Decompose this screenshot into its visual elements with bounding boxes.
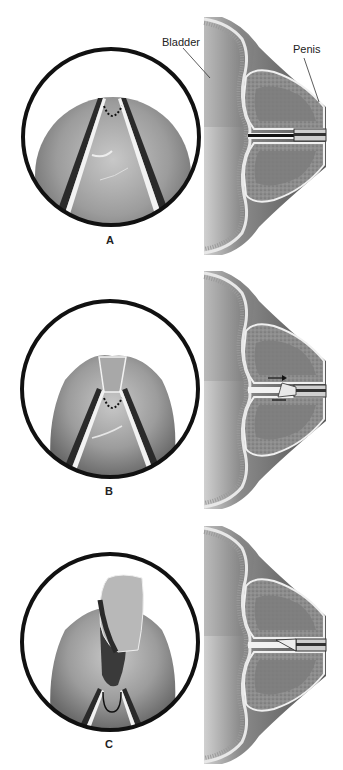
panel-label-b: B — [99, 485, 119, 497]
panel-b — [20, 300, 205, 485]
panel-c — [20, 553, 205, 738]
illustration-canvas — [0, 0, 343, 770]
bladder-label: Bladder — [162, 36, 200, 48]
anatomy-section-c — [204, 526, 326, 764]
figure: Bladder Penis A B C — [0, 0, 343, 770]
panel-label-a: A — [100, 234, 120, 246]
panel-a — [20, 45, 205, 253]
penis-label: Penis — [293, 43, 321, 55]
anatomy-section-b — [204, 271, 326, 509]
panel-label-c: C — [99, 738, 119, 750]
